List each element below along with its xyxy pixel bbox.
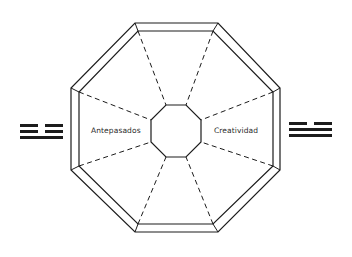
trigram-line-broken — [289, 122, 332, 125]
trigram-line-solid — [20, 136, 63, 139]
trigram-right-icon — [289, 122, 332, 140]
trigram-line-solid — [289, 128, 332, 131]
center-octagon — [151, 105, 201, 157]
trigram-left-icon — [20, 124, 63, 142]
label-creatividad: Creatividad — [214, 126, 258, 135]
label-antepasados: Antepasados — [91, 126, 141, 135]
trigram-line-broken — [20, 130, 63, 133]
trigram-line-solid — [289, 134, 332, 137]
trigram-line-broken — [20, 124, 63, 127]
